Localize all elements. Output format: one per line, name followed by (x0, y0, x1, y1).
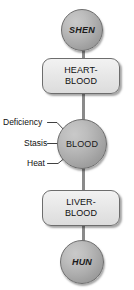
callout-label-stasis: Stasis (24, 138, 47, 148)
node-shen-label: SHEN (69, 26, 95, 35)
callout-label-deficiency: Deficiency (3, 117, 42, 127)
node-heart-blood: HEART- BLOOD (42, 58, 120, 94)
node-liver-blood: LIVER- BLOOD (42, 190, 120, 226)
callout-label-heat: Heat (27, 158, 45, 168)
node-hun: HUN (60, 240, 104, 284)
node-shen: SHEN (61, 9, 103, 51)
blood-relationships-diagram: SHEN HEART- BLOOD BLOOD LIVER- BLOOD HUN… (0, 0, 134, 290)
node-hun-label: HUN (72, 258, 92, 267)
node-heart-blood-label: HEART- BLOOD (64, 65, 97, 87)
node-liver-blood-label: LIVER- BLOOD (65, 197, 97, 219)
node-blood-label: BLOOD (66, 140, 98, 149)
node-blood: BLOOD (57, 119, 107, 169)
